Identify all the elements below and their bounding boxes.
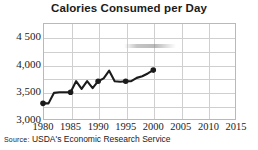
data-point-marker — [150, 67, 156, 73]
calories-line-series — [43, 70, 153, 103]
source-value: USDA's Economic Research Service — [32, 134, 171, 144]
chart-figure: Calories Consumed per Day 3,0003,5004,00… — [0, 0, 258, 150]
calories-line-markers — [40, 67, 156, 106]
data-point-marker — [95, 78, 101, 84]
source-note: Source: USDA's Economic Research Service — [4, 134, 171, 144]
data-point-marker — [68, 89, 74, 95]
y-axis-tick-label: 4 500 — [0, 30, 41, 42]
data-point-marker — [123, 78, 129, 84]
y-axis-tick-label: 4,000 — [0, 58, 41, 70]
data-point-marker — [40, 101, 46, 107]
source-label: Source: — [4, 136, 30, 143]
x-axis-tick-label: 2015 — [219, 121, 253, 132]
y-axis-tick-label: 3,500 — [0, 85, 41, 97]
